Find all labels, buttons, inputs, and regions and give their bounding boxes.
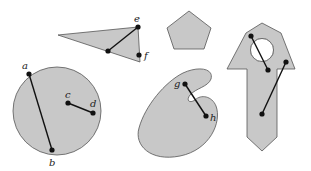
point-a — [26, 71, 31, 76]
point-d — [90, 110, 95, 115]
label-d: d — [90, 98, 96, 109]
triangle-region — [58, 27, 140, 62]
point-e — [135, 24, 140, 29]
point-arrow-4 — [259, 111, 264, 116]
triangle-shape: e f — [58, 13, 150, 62]
point-arrow-2 — [265, 67, 270, 72]
point-b — [49, 147, 54, 152]
point-interior — [105, 48, 110, 53]
label-e: e — [134, 13, 140, 24]
point-arrow-3 — [283, 59, 288, 64]
pentagon-shape — [167, 11, 211, 49]
pentagon-region — [167, 11, 211, 49]
label-c: c — [65, 89, 71, 100]
convex-sets-diagram: a b c d e f g h — [0, 0, 311, 171]
label-a: a — [22, 60, 28, 71]
kidney-shape: g h — [138, 69, 217, 157]
point-c — [65, 100, 70, 105]
point-arrow-1 — [248, 33, 253, 38]
label-f: f — [143, 50, 150, 61]
circle-shape: a b c d — [13, 60, 101, 168]
point-f — [136, 52, 141, 57]
label-h: h — [210, 112, 216, 123]
label-g: g — [174, 78, 180, 89]
label-b: b — [49, 157, 55, 168]
arrow-shape — [227, 23, 295, 151]
point-h — [203, 113, 208, 118]
point-g — [182, 81, 187, 86]
